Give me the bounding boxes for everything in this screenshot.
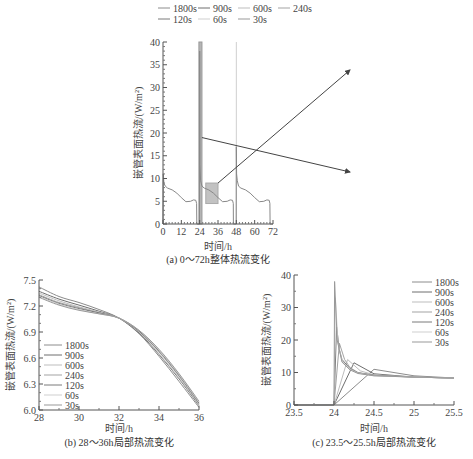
chart-c-y-tick-label: 0 <box>286 400 291 411</box>
chart-a-arrow-to-c <box>202 138 350 172</box>
legend-top-label: 30s <box>253 14 267 25</box>
chart-c-y-tick-label: 30 <box>281 302 291 313</box>
chart-b-y-tick-label: 7.5 <box>24 275 37 286</box>
chart-a-x-tick-label: 48 <box>231 226 241 237</box>
chart-b-y-tick-label: 6.9 <box>24 327 37 338</box>
chart-a-xlabel: 时间/h <box>204 240 232 252</box>
chart-a-y-tick-label: 15 <box>150 150 160 161</box>
chart-c-legend: 1800s900s600s240s120s60s30s <box>412 277 459 348</box>
chart-c-series-120s <box>294 327 454 405</box>
chart-a-y-tick-label: 25 <box>150 105 160 116</box>
legend-top-label: 120s <box>173 14 192 25</box>
chart-a-y-tick-label: 5 <box>155 196 160 207</box>
chart-a-y-tick-label: 0 <box>155 219 160 230</box>
chart-c: 23.52424.52525.5010203040 1800s900s600s2… <box>260 270 463 450</box>
chart-c-legend-label: 30s <box>435 337 449 348</box>
chart-c-xlabel: 时间/h <box>360 422 388 434</box>
chart-a-x-tick-label: 12 <box>176 226 186 237</box>
chart-b-series-900s <box>39 291 199 405</box>
chart-c-x-tick-label: 25 <box>409 407 419 418</box>
legend-top-label: 600s <box>253 3 272 14</box>
figure: 1800s900s600s240s120s60s30s 012243648607… <box>0 0 473 459</box>
chart-c-y-tick-label: 20 <box>281 335 291 346</box>
chart-b-series-120s <box>39 296 199 404</box>
legend-top-label: 900s <box>213 3 232 14</box>
legend-top: 1800s900s600s240s120s60s30s <box>158 3 312 25</box>
chart-b-series-240s <box>39 295 199 404</box>
chart-c-series-60s <box>294 298 454 405</box>
chart-a-y-tick-label: 20 <box>150 128 160 139</box>
chart-b-x-tick-label: 32 <box>114 412 124 423</box>
legend-top-label: 60s <box>213 14 227 25</box>
chart-a-y-tick-label: 30 <box>150 82 160 93</box>
chart-a-arrow-to-b <box>218 70 350 183</box>
chart-a-y-tick-label: 40 <box>150 37 160 48</box>
chart-a-x-tick-label: 24 <box>195 226 205 237</box>
legend-top-label: 240s <box>293 3 312 14</box>
chart-a-series-line <box>163 51 273 224</box>
chart-b-title: (b) 28～36h局部热流变化 <box>64 436 173 449</box>
chart-c-ylabel: 嵌管表面热流/(W/m²) <box>260 294 273 386</box>
chart-a-ylabel: 嵌管表面热流/(W/m²) <box>132 87 145 179</box>
chart-b-x-tick-label: 30 <box>74 412 84 423</box>
chart-a: 01224364860720510152025303540 时间/h 嵌管表面热… <box>132 37 350 267</box>
legend-top-label: 1800s <box>173 3 197 14</box>
chart-c-x-tick-label: 24 <box>329 407 339 418</box>
chart-a-y-tick-label: 10 <box>150 173 160 184</box>
chart-a-x-tick-label: 0 <box>161 226 166 237</box>
chart-b-legend: 1800s900s600s240s120s60s30s <box>44 340 89 411</box>
chart-b-ylabel: 嵌管表面热流/(W/m²) <box>4 299 17 391</box>
chart-c-title: (c) 23.5～25.5h局部热流变化 <box>312 436 436 449</box>
chart-a-x-tick-label: 36 <box>213 226 223 237</box>
chart-a-title: (a) 0～72h整体热流变化 <box>166 253 270 266</box>
chart-c-series-600s <box>294 360 454 406</box>
chart-c-x-tick-label: 24.5 <box>365 407 383 418</box>
chart-b-x-tick-label: 36 <box>194 412 204 423</box>
chart-b-series-600s <box>39 293 199 405</box>
chart-a-y-tick-label: 35 <box>150 59 160 70</box>
chart-a-x-tick-label: 60 <box>250 226 260 237</box>
chart-b: 28303234366.06.36.66.97.27.5 1800s900s60… <box>4 275 204 450</box>
chart-c-series-30s <box>294 282 454 406</box>
chart-a-x-tick-label: 72 <box>268 226 278 237</box>
chart-b-y-tick-label: 6.3 <box>24 379 37 390</box>
chart-c-x-tick-label: 25.5 <box>445 407 463 418</box>
chart-b-series-60s <box>39 296 199 402</box>
chart-c-y-tick-label: 40 <box>281 270 291 281</box>
chart-b-y-tick-label: 6.0 <box>24 405 37 416</box>
chart-b-legend-label: 30s <box>65 400 79 411</box>
chart-c-y-tick-label: 10 <box>281 367 291 378</box>
chart-b-x-tick-label: 34 <box>154 412 164 423</box>
chart-b-xlabel: 时间/h <box>105 422 133 434</box>
chart-a-highlight-b <box>206 183 218 203</box>
chart-b-series-30s <box>39 297 199 401</box>
chart-b-y-tick-label: 7.2 <box>24 301 37 312</box>
chart-b-y-tick-label: 6.6 <box>24 353 37 364</box>
